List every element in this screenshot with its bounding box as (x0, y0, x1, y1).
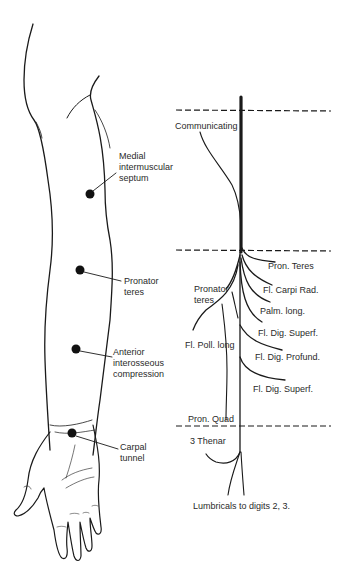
palm-line (66, 477, 94, 488)
label-anterior-1: Anterior (113, 347, 145, 357)
label-pron-quad: Pron. Quad (188, 414, 234, 424)
label-medial-1: Medial (119, 151, 146, 161)
site-leader (84, 272, 121, 281)
branch-side (232, 292, 238, 318)
label-fl-dig-superf-1: Fl. Dig. Superf. (258, 328, 318, 338)
branch-interosseous (222, 304, 227, 420)
branch-communicating (200, 132, 241, 225)
label-pron-teres: Pron. Teres (268, 261, 314, 271)
armpit-crease (95, 110, 110, 148)
label-pronator-1: Pronator (124, 276, 159, 286)
compression-site-anterior: Anterior interosseous compression (72, 345, 165, 380)
armpit-fold (67, 95, 90, 118)
median-nerve-diagram: Medial intermuscular septum Pronator ter… (0, 0, 349, 570)
arm-outer-edge (24, 24, 52, 450)
label-fl-dig-superf-2: Fl. Dig. Superf. (253, 384, 313, 394)
label-carpal-2: tunnel (120, 453, 145, 463)
label-fl-carpi-rad: Fl. Carpi Rad. (263, 285, 319, 295)
label-pronator-teres-1: Pronator (194, 284, 229, 294)
branch-lumbrical-1 (228, 452, 240, 495)
label-pronator-teres-2: teres (194, 295, 215, 305)
compression-site-pronator: Pronator teres (76, 266, 159, 298)
label-fl-dig-profund: Fl. Dig. Profund. (255, 352, 320, 362)
wrist-crease (50, 420, 92, 426)
label-anterior-2: interosseous (113, 358, 165, 368)
arm-outline (14, 24, 112, 561)
finger-crease (57, 526, 66, 527)
compression-site-carpal: Carpal tunnel (68, 429, 147, 464)
nerve-schematic: Communicating Pron. Teres Fl. Carpi Rad.… (175, 97, 331, 511)
level-line-elbow (176, 250, 331, 251)
finger-crease (83, 512, 89, 513)
finger-crease (70, 513, 79, 514)
branch-thenar (206, 452, 240, 463)
branch-lumbrical-2 (241, 452, 244, 495)
label-medial-2: intermuscular (119, 162, 173, 172)
site-leader (80, 351, 112, 357)
label-three-thenar: 3 Thenar (190, 436, 226, 446)
compression-site-medial: Medial intermuscular septum (86, 151, 174, 199)
site-dot (68, 429, 77, 438)
level-line-axilla (176, 110, 331, 111)
label-medial-3: septum (119, 173, 149, 183)
arm-inner-edge (90, 76, 112, 455)
label-carpal-1: Carpal (120, 442, 147, 452)
site-dot (76, 266, 85, 275)
label-lumbricals: Lumbricals to digits 2, 3. (193, 501, 290, 511)
hand-outline (14, 425, 101, 561)
label-palm-long: Palm. long. (260, 306, 305, 316)
label-fl-poll-long: Fl. Poll. long (185, 340, 235, 350)
label-anterior-3: compression (113, 369, 164, 379)
site-dot (72, 345, 81, 354)
label-pronator-2: teres (124, 287, 145, 297)
label-communicating: Communicating (175, 121, 238, 131)
finger-crease (92, 505, 98, 506)
